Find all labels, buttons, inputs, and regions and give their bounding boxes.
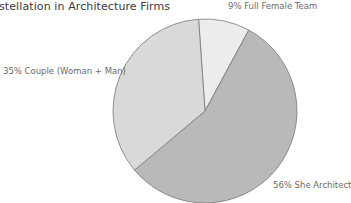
label-couple: 35% Couple (Woman + Man) <box>3 66 126 76</box>
label-she-architect: 56% She Architect <box>273 180 351 190</box>
label-full-female-team: 9% Full Female Team <box>228 1 317 11</box>
